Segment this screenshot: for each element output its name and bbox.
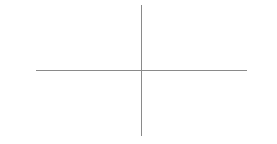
axes-canvas [0,0,277,144]
vertical-axis-line [141,5,142,136]
